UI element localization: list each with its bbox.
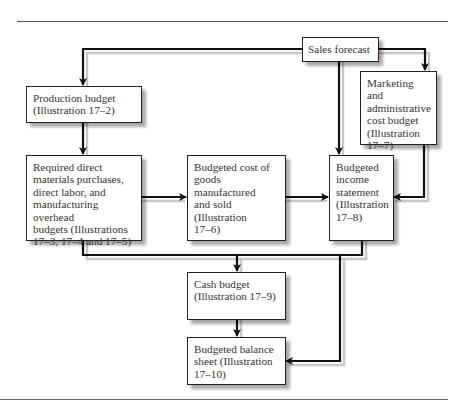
node-sales-forecast: Sales forecast <box>302 37 379 62</box>
node-production-budget: Production budget (Illustration 17–2) <box>26 86 142 123</box>
node-cogs-budget: Budgeted cost of goods manufactured and … <box>187 155 286 241</box>
node-direct-budgets: Required direct materials purchases, dir… <box>26 155 142 241</box>
node-cash-budget: Cash budget (Illustration 17–9) <box>187 272 286 320</box>
node-marketing-admin-budget: Marketing and administrative cost budget… <box>360 71 437 145</box>
node-income-statement: Budgeted income statement (Illustration … <box>329 155 394 241</box>
node-balance-sheet: Budgeted balance sheet (Illustration 17–… <box>187 337 286 385</box>
